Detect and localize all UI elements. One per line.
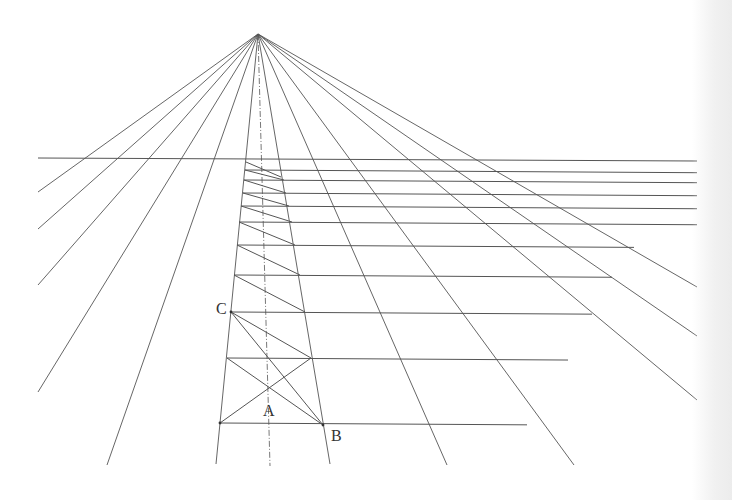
diagonal xyxy=(237,245,300,275)
grid-row xyxy=(234,275,612,277)
vanishing-ray xyxy=(38,34,258,229)
vanishing-ray xyxy=(38,34,258,392)
diagonal-lines xyxy=(220,162,323,425)
diagonal xyxy=(231,312,311,358)
diagonal xyxy=(231,312,323,425)
diagonal xyxy=(234,275,305,312)
vanishing-rays xyxy=(38,34,697,465)
grid-row xyxy=(237,245,634,247)
diagonal xyxy=(241,206,292,222)
diagonal xyxy=(243,193,289,206)
perspective-diagram: A B C xyxy=(0,0,732,500)
point-marker xyxy=(230,311,233,314)
diagonal xyxy=(239,222,295,245)
vanishing-ray xyxy=(258,34,697,400)
grid-row xyxy=(241,206,697,209)
horizon-line xyxy=(38,158,697,161)
grid-row xyxy=(227,358,568,360)
grid-row xyxy=(243,193,697,196)
label-c: C xyxy=(216,301,227,317)
diagonal xyxy=(227,358,323,425)
diagonal xyxy=(245,170,284,180)
grid-row xyxy=(245,170,697,173)
page-gutter-shadow xyxy=(692,0,732,500)
point-marker xyxy=(322,424,325,427)
label-a: A xyxy=(263,403,275,419)
vanishing-ray xyxy=(216,34,258,464)
horizon-line xyxy=(38,158,697,161)
point-marker xyxy=(219,422,222,425)
grid-row xyxy=(231,312,592,314)
vanishing-ray xyxy=(258,34,574,465)
grid-row xyxy=(239,222,697,225)
vanishing-ray xyxy=(38,34,258,192)
perspective-grid-canvas xyxy=(0,0,732,500)
vanishing-ray xyxy=(38,34,258,285)
grid-row xyxy=(220,423,527,425)
vanishing-ray xyxy=(107,34,258,465)
label-b: B xyxy=(331,428,342,444)
diagonal xyxy=(244,180,286,193)
vanishing-ray xyxy=(258,34,330,464)
